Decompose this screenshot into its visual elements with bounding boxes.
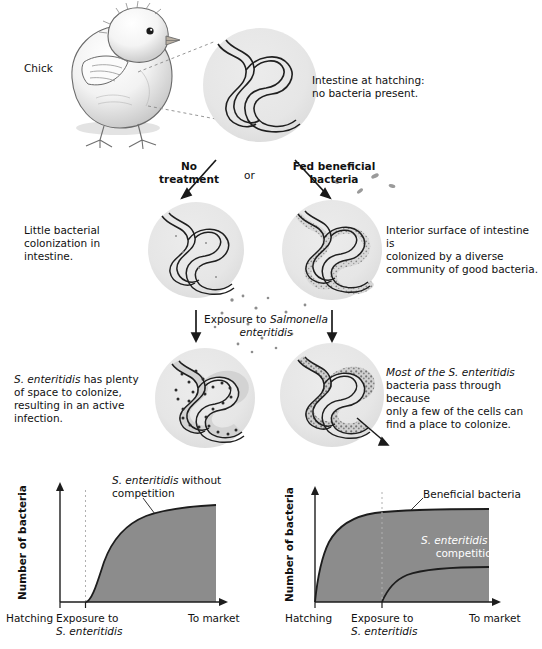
right-chart-annotation-line2: competition (436, 547, 499, 559)
right-chart-xtick-exposure-line1: Exposure to (351, 612, 414, 624)
label-no-treatment: No treatment (152, 160, 226, 186)
right-chart-xtick-market: To market (469, 612, 521, 625)
label-or: or (244, 169, 255, 182)
label-infection-outcome: S. enteritidis has plenty of space to co… (14, 373, 154, 425)
left-chart-xtick-market: To market (188, 612, 240, 625)
right-chart-leader-line (411, 498, 423, 510)
intestine-circle-little-colonization (148, 202, 244, 298)
right-chart-annotation-species: S. enteritidis (421, 534, 487, 546)
left-chart-xtick-exposure: Exposure to S. enteritidis (56, 612, 162, 638)
label-chick: Chick (24, 62, 53, 75)
label-exposure-to-salmonella: Exposure to Salmonella enteritidis (204, 313, 328, 339)
pass-through-text: bacteria pass through because only a few… (386, 379, 523, 430)
left-chart-annotation: S. enteritidis without competition (112, 474, 262, 500)
label-interior-colonized: Interior surface of intestine is coloniz… (386, 224, 538, 276)
right-chart-y-axis-label: Number of bacteria (283, 487, 295, 602)
left-chart-xtick-exposure-line2: S. enteritidis (56, 625, 122, 637)
exposure-text-species: enteritidis (239, 326, 292, 338)
exposure-text-genus: Salmonella (270, 313, 328, 325)
left-chart-xtick-exposure-line1: Exposure to (56, 612, 119, 624)
pass-through-lead: Most of the S. enteritidis (386, 366, 515, 378)
intestine-circle-infected (155, 348, 255, 448)
left-chart-area (86, 505, 217, 602)
infection-outcome-species: S. enteritidis (14, 373, 80, 385)
left-chart: Number of bacteria S. enteritidis withou… (0, 462, 271, 649)
right-chart: Number of bacteria Beneficial bacteria S… (271, 462, 542, 649)
left-chart-y-axis-label: Number of bacteria (16, 485, 28, 600)
label-fed-beneficial-bacteria: Fed beneficial bacteria (286, 160, 382, 186)
illustration-figure: Chick Intestine at hatching: no bacteria… (0, 0, 542, 649)
intestine-circle-colonized (282, 200, 382, 300)
right-chart-xtick-exposure: Exposure to S. enteritidis (351, 612, 457, 638)
left-chart-leader-line (143, 498, 155, 514)
label-pass-through-outcome: Most of the S. enteritidis bacteria pass… (386, 366, 540, 431)
exposure-text-plain: Exposure to (204, 313, 270, 325)
right-chart-annotation-salmonella: S. enteritidis with competition (399, 534, 535, 560)
right-chart-annotation-plain: with (487, 534, 513, 546)
left-chart-annotation-line2: competition (112, 487, 175, 499)
left-chart-annotation-plain: without (178, 474, 221, 486)
right-chart-xtick-hatching: Hatching (285, 612, 332, 625)
right-chart-annotation-beneficial: Beneficial bacteria (423, 488, 542, 501)
intestine-circle-hatching (203, 28, 317, 142)
intestine-circle-pass-through (280, 343, 388, 447)
label-little-colonization: Little bacterial colonization in intesti… (24, 224, 100, 263)
chick-illustration (72, 1, 180, 149)
left-chart-annotation-species: S. enteritidis (112, 474, 178, 486)
label-intestine-at-hatching: Intestine at hatching: no bacteria prese… (312, 74, 425, 100)
right-chart-xtick-exposure-line2: S. enteritidis (351, 625, 417, 637)
left-chart-xtick-hatching: Hatching (6, 612, 53, 625)
